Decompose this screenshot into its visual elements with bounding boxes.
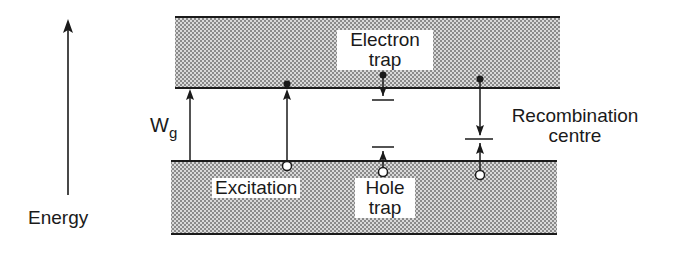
electron-dot-icon (477, 76, 484, 83)
recombination-label-line2: centre (505, 126, 645, 146)
excitation-label: Excitation (212, 178, 300, 198)
hole-circle-icon (476, 171, 485, 180)
recombination-centre-label: Recombination centre (505, 106, 645, 146)
electron-dot-icon (380, 72, 387, 79)
electron-trap-label-line2: trap (340, 50, 430, 70)
bandgap-label-main: W (150, 114, 169, 136)
hole-trap-label-line2: trap (358, 198, 412, 218)
hole-circle-icon (379, 168, 388, 177)
hole-circle-icon (283, 162, 292, 171)
hole-trap-label-line1: Hole (358, 178, 412, 198)
bandgap-arrow (186, 89, 194, 161)
bandgap-label: Wg (150, 115, 177, 137)
hole-trap-label: Hole trap (355, 178, 415, 218)
energy-axis-label: Energy (28, 208, 88, 228)
electron-dot-icon (284, 81, 291, 88)
energy-axis-arrow (63, 19, 73, 195)
recombination-label-line1: Recombination (505, 106, 645, 126)
excitation-process (283, 81, 292, 171)
electron-trap-label: Electron trap (337, 30, 433, 70)
electron-trap-label-line1: Electron (340, 30, 430, 50)
bandgap-label-sub: g (169, 124, 177, 141)
